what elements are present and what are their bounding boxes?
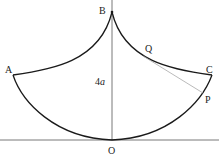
cusp-point-b — [111, 11, 114, 14]
right-evolute-arc — [112, 12, 212, 75]
height-variable: a — [100, 76, 105, 87]
label-height: 4a — [95, 76, 105, 87]
label-q: Q — [145, 43, 153, 54]
label-a: A — [5, 64, 13, 75]
label-c: C — [206, 64, 213, 75]
left-evolute-arc — [13, 12, 112, 75]
label-b: B — [99, 5, 106, 16]
lower-cycloid-arc — [13, 75, 212, 140]
label-o: O — [108, 145, 115, 156]
cycloid-diagram: B A C Q P O 4a — [0, 0, 219, 158]
tangent-line-qp — [143, 56, 203, 93]
label-p: P — [205, 94, 211, 105]
